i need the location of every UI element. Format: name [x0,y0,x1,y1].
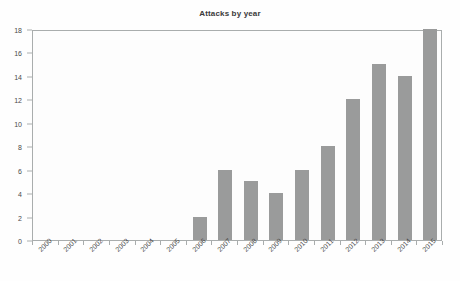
bar [321,146,335,240]
bar [244,181,258,240]
bar [346,99,360,240]
bar [193,217,207,240]
x-tick-mark [211,241,212,245]
bars-layer [33,31,441,240]
y-tick-label: 18 [14,27,22,34]
y-tick-label: 0 [18,238,22,245]
y-tick-label: 2 [18,214,22,221]
plot-area [32,30,442,241]
x-tick-mark [288,241,289,245]
y-tick-label: 8 [18,144,22,151]
y-tick-label: 16 [14,50,22,57]
x-tick-mark [442,241,443,245]
bar [398,76,412,240]
y-tick-label: 4 [18,191,22,198]
chart-title: Attacks by year [0,9,460,18]
x-tick-mark [83,241,84,245]
x-tick-mark [135,241,136,245]
bar [372,64,386,240]
bar [423,29,437,240]
x-tick-mark [58,241,59,245]
y-tick-label: 12 [14,97,22,104]
x-tick-mark [186,241,187,245]
x-tick-mark [314,241,315,245]
y-tick-label: 6 [18,167,22,174]
bar [269,193,283,240]
x-tick-mark [416,241,417,245]
x-tick-mark [391,241,392,245]
x-tick-mark [109,241,110,245]
x-tick-mark [237,241,238,245]
y-tick-label: 10 [14,120,22,127]
bar [218,170,232,240]
x-tick-mark [160,241,161,245]
x-tick-mark [32,241,33,245]
x-axis: 2000200120022003200420052006200720082009… [32,241,442,281]
y-tick-label: 14 [14,73,22,80]
bar-chart: Attacks by year 024681012141618 20002001… [0,0,460,281]
x-tick-mark [263,241,264,245]
x-tick-mark [340,241,341,245]
bar [295,170,309,240]
x-tick-mark [365,241,366,245]
y-axis: 024681012141618 [0,0,32,281]
